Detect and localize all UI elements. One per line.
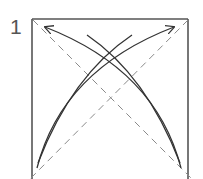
diagonal-fold-line-2 <box>30 20 188 179</box>
fold-arrow-bl-to-tr <box>37 27 174 168</box>
origami-diagram <box>0 0 203 179</box>
diagonal-fold-line-1 <box>33 20 192 179</box>
unfold-arc-bl <box>38 35 132 163</box>
unfold-arc-br <box>87 35 180 163</box>
